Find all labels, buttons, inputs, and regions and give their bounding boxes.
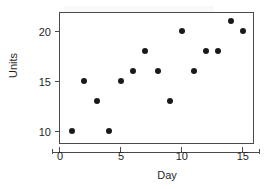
x-axis-line: 051015 — [52, 152, 260, 153]
data-point — [191, 68, 197, 74]
data-point — [179, 28, 185, 34]
x-axis-tick: 15 — [242, 147, 243, 153]
x-axis-tick: 5 — [120, 147, 121, 153]
x-axis-tick: 10 — [181, 147, 182, 153]
y-axis-tick-label: 20 — [39, 27, 51, 38]
y-axis-tick-label: 15 — [39, 77, 51, 88]
x-axis-tick-label: 15 — [237, 151, 249, 162]
y-axis-tick: 20 — [55, 31, 60, 32]
y-axis-tick: 10 — [55, 131, 60, 132]
data-point — [203, 48, 209, 54]
data-point — [106, 128, 112, 134]
x-axis-title: Day — [0, 170, 278, 181]
data-point — [130, 68, 136, 74]
data-point — [69, 128, 75, 134]
x-axis-title-text: Day — [157, 169, 177, 181]
x-axis-tick-label: 5 — [118, 151, 124, 162]
data-point — [94, 98, 100, 104]
y-axis-tick-label: 10 — [39, 127, 51, 138]
data-area — [60, 13, 253, 143]
y-axis-title-text: Units — [7, 53, 19, 78]
data-point — [240, 28, 246, 34]
scatter-chart-figure: 101520 051015 Day Units — [0, 0, 278, 189]
data-point — [118, 78, 124, 84]
data-point — [81, 78, 87, 84]
x-axis-tick: 0 — [59, 147, 60, 153]
data-point — [215, 48, 221, 54]
y-axis-title: Units — [8, 53, 19, 78]
data-point — [167, 98, 173, 104]
x-axis-tick-label: 0 — [57, 151, 63, 162]
data-point — [228, 18, 234, 24]
x-axis-tick-label: 10 — [176, 151, 188, 162]
data-point — [142, 48, 148, 54]
y-axis-tick: 15 — [55, 81, 60, 82]
data-point — [155, 68, 161, 74]
plot-frame: 101520 — [59, 12, 254, 144]
